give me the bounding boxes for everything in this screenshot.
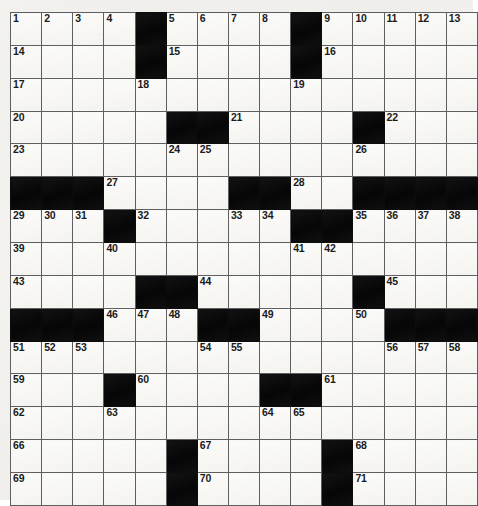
crossword-cell[interactable] — [446, 407, 477, 440]
crossword-cell[interactable]: 17 — [11, 78, 42, 111]
crossword-cell[interactable]: 55 — [228, 341, 259, 374]
crossword-cell[interactable] — [415, 440, 446, 473]
crossword-cell[interactable]: 19 — [291, 78, 322, 111]
crossword-cell[interactable] — [42, 111, 73, 144]
crossword-cell[interactable] — [353, 407, 384, 440]
crossword-cell[interactable] — [260, 45, 291, 78]
crossword-cell[interactable] — [228, 374, 259, 407]
crossword-cell[interactable] — [446, 45, 477, 78]
crossword-cell[interactable] — [446, 243, 477, 276]
crossword-cell[interactable] — [197, 407, 228, 440]
crossword-cell[interactable] — [135, 440, 166, 473]
crossword-cell[interactable] — [415, 407, 446, 440]
crossword-cell[interactable] — [291, 275, 322, 308]
crossword-cell[interactable] — [228, 473, 259, 506]
crossword-cell[interactable] — [415, 144, 446, 177]
crossword-cell[interactable] — [384, 45, 415, 78]
crossword-cell[interactable]: 68 — [353, 440, 384, 473]
crossword-cell[interactable]: 29 — [11, 210, 42, 243]
crossword-cell[interactable] — [384, 440, 415, 473]
crossword-cell[interactable]: 41 — [291, 243, 322, 276]
crossword-cell[interactable] — [228, 275, 259, 308]
crossword-cell[interactable]: 48 — [166, 308, 197, 341]
crossword-cell[interactable] — [322, 144, 353, 177]
crossword-cell[interactable]: 65 — [291, 407, 322, 440]
crossword-cell[interactable] — [446, 78, 477, 111]
crossword-cell[interactable] — [42, 144, 73, 177]
crossword-cell[interactable] — [446, 111, 477, 144]
crossword-cell[interactable]: 23 — [11, 144, 42, 177]
crossword-cell[interactable] — [384, 473, 415, 506]
crossword-cell[interactable]: 2 — [42, 13, 73, 46]
crossword-cell[interactable] — [42, 407, 73, 440]
crossword-cell[interactable] — [322, 78, 353, 111]
crossword-cell[interactable] — [135, 177, 166, 210]
crossword-cell[interactable] — [228, 45, 259, 78]
crossword-cell[interactable] — [228, 407, 259, 440]
crossword-cell[interactable]: 20 — [11, 111, 42, 144]
crossword-cell[interactable]: 24 — [166, 144, 197, 177]
crossword-cell[interactable]: 31 — [73, 210, 104, 243]
crossword-cell[interactable] — [260, 473, 291, 506]
crossword-cell[interactable] — [135, 111, 166, 144]
crossword-cell[interactable] — [42, 45, 73, 78]
crossword-cell[interactable] — [353, 243, 384, 276]
crossword-cell[interactable] — [260, 275, 291, 308]
crossword-cell[interactable] — [322, 275, 353, 308]
crossword-cell[interactable] — [104, 440, 135, 473]
crossword-cell[interactable]: 53 — [73, 341, 104, 374]
crossword-cell[interactable]: 46 — [104, 308, 135, 341]
crossword-cell[interactable] — [384, 243, 415, 276]
crossword-cell[interactable] — [166, 78, 197, 111]
crossword-cell[interactable]: 54 — [197, 341, 228, 374]
crossword-cell[interactable] — [260, 78, 291, 111]
crossword-cell[interactable] — [104, 78, 135, 111]
crossword-cell[interactable]: 38 — [446, 210, 477, 243]
crossword-cell[interactable] — [291, 144, 322, 177]
crossword-cell[interactable] — [291, 341, 322, 374]
crossword-cell[interactable] — [260, 243, 291, 276]
crossword-cell[interactable] — [135, 243, 166, 276]
crossword-cell[interactable]: 33 — [228, 210, 259, 243]
crossword-cell[interactable] — [104, 473, 135, 506]
crossword-cell[interactable] — [322, 407, 353, 440]
crossword-cell[interactable]: 4 — [104, 13, 135, 46]
crossword-cell[interactable] — [73, 407, 104, 440]
crossword-cell[interactable] — [197, 243, 228, 276]
crossword-cell[interactable]: 18 — [135, 78, 166, 111]
crossword-cell[interactable]: 1 — [11, 13, 42, 46]
crossword-cell[interactable]: 34 — [260, 210, 291, 243]
crossword-cell[interactable] — [73, 275, 104, 308]
crossword-cell[interactable] — [197, 78, 228, 111]
crossword-cell[interactable] — [260, 144, 291, 177]
crossword-cell[interactable] — [415, 111, 446, 144]
crossword-cell[interactable]: 40 — [104, 243, 135, 276]
crossword-cell[interactable]: 25 — [197, 144, 228, 177]
crossword-cell[interactable] — [415, 78, 446, 111]
crossword-cell[interactable]: 35 — [353, 210, 384, 243]
crossword-cell[interactable] — [415, 45, 446, 78]
crossword-cell[interactable] — [415, 275, 446, 308]
crossword-cell[interactable] — [135, 144, 166, 177]
crossword-cell[interactable] — [166, 243, 197, 276]
crossword-cell[interactable] — [104, 144, 135, 177]
crossword-cell[interactable]: 66 — [11, 440, 42, 473]
crossword-cell[interactable] — [135, 473, 166, 506]
crossword-cell[interactable]: 61 — [322, 374, 353, 407]
crossword-cell[interactable]: 8 — [260, 13, 291, 46]
crossword-cell[interactable] — [446, 473, 477, 506]
crossword-cell[interactable]: 56 — [384, 341, 415, 374]
crossword-cell[interactable] — [73, 78, 104, 111]
crossword-cell[interactable]: 60 — [135, 374, 166, 407]
crossword-cell[interactable] — [322, 341, 353, 374]
crossword-cell[interactable] — [228, 243, 259, 276]
crossword-cell[interactable] — [260, 111, 291, 144]
crossword-cell[interactable] — [73, 111, 104, 144]
crossword-cell[interactable] — [228, 144, 259, 177]
crossword-cell[interactable]: 62 — [11, 407, 42, 440]
crossword-cell[interactable] — [446, 374, 477, 407]
crossword-cell[interactable] — [446, 144, 477, 177]
crossword-cell[interactable] — [260, 440, 291, 473]
crossword-cell[interactable]: 26 — [353, 144, 384, 177]
crossword-cell[interactable] — [384, 374, 415, 407]
